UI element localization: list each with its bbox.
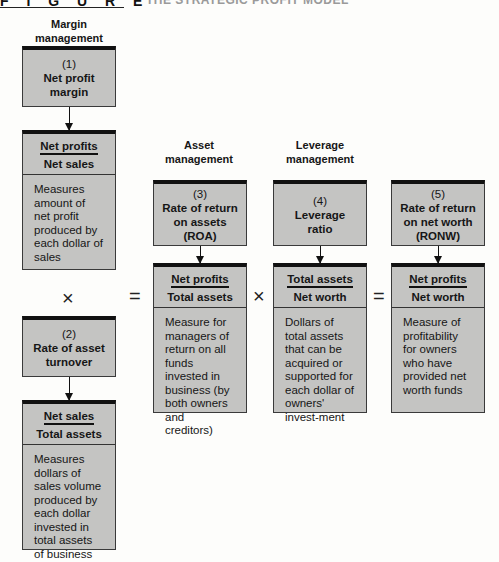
- ronw-box: (5) Rate of return on net worth (RONW): [391, 180, 485, 246]
- box-title-line: Rate of return: [400, 201, 475, 215]
- formula: Net profits Total assets: [154, 267, 246, 307]
- description: Measure for managers of return on all fu…: [154, 308, 246, 446]
- column-label-leverage: Leverage management: [272, 138, 368, 166]
- box-number: (2): [62, 327, 76, 341]
- equals-operator: =: [373, 285, 385, 308]
- column-label-margin: Margin management: [22, 17, 116, 45]
- formula-numerator: Net profits: [409, 270, 467, 288]
- formula-numerator: Total assets: [287, 270, 353, 288]
- formula-denominator: Net worth: [392, 288, 484, 307]
- formula-numerator: Net sales: [44, 407, 95, 425]
- box-title-line: (RONW): [416, 229, 460, 243]
- ronw-formula-box: Net profits Net worth Measure of profita…: [391, 263, 485, 413]
- multiply-operator: ×: [253, 285, 265, 308]
- box-number: (4): [313, 194, 327, 208]
- figure-header: F I G U R E THE STRATEGIC PROFIT MODEL: [0, 0, 499, 14]
- description: Measure of profitability for owners who …: [392, 308, 484, 405]
- figure-title: THE STRATEGIC PROFIT MODEL: [146, 0, 349, 7]
- arrow-down-icon: [200, 246, 201, 263]
- formula: Total assets Net worth: [274, 267, 366, 307]
- net-profit-margin-formula-box: Net profits Net sales Measures amount of…: [22, 130, 116, 270]
- box-title-line: Net profit: [43, 71, 94, 85]
- column-label-asset: Asset management: [152, 138, 246, 166]
- box-title-line: on net worth: [404, 215, 473, 229]
- formula: Net sales Total assets: [23, 404, 115, 444]
- box-number: (1): [62, 57, 76, 71]
- leverage-ratio-box: (4) Leverage ratio: [273, 180, 367, 246]
- formula-denominator: Net worth: [274, 288, 366, 307]
- formula-denominator: Net sales: [23, 155, 115, 174]
- net-profit-margin-box: (1) Net profit margin: [22, 46, 116, 107]
- formula-numerator: Net profits: [171, 270, 229, 288]
- asset-turnover-box: (2) Rate of asset turnover: [22, 316, 116, 377]
- equals-operator: =: [129, 285, 141, 308]
- description: Measures dollars of sales volume produce…: [23, 445, 115, 562]
- roa-formula-box: Net profits Total assets Measure for man…: [153, 263, 247, 413]
- arrow-down-icon: [69, 107, 70, 130]
- formula-numerator: Net profits: [40, 137, 98, 155]
- header-rule: [0, 7, 124, 8]
- box-title-line: turnover: [46, 355, 93, 369]
- formula: Net profits Net worth: [392, 267, 484, 307]
- box-title-line: ratio: [308, 222, 333, 236]
- description: Measures amount of net profit produced b…: [23, 175, 115, 272]
- box-title-line: Leverage: [295, 208, 346, 222]
- arrow-down-icon: [438, 246, 439, 263]
- formula-denominator: Total assets: [154, 288, 246, 307]
- asset-turnover-formula-box: Net sales Total assets Measures dollars …: [22, 400, 116, 550]
- formula-denominator: Total assets: [23, 425, 115, 444]
- box-title-line: (ROA): [183, 229, 216, 243]
- description: Dollars of total assets that can be acqu…: [274, 308, 366, 432]
- box-title-line: on assets: [173, 215, 226, 229]
- formula: Net profits Net sales: [23, 134, 115, 174]
- box-number: (5): [431, 187, 445, 201]
- arrow-down-icon: [320, 246, 321, 263]
- box-title-line: Rate of return: [162, 201, 237, 215]
- multiply-operator: ×: [62, 287, 74, 310]
- box-title-line: margin: [50, 85, 88, 99]
- box-number: (3): [193, 187, 207, 201]
- arrow-down-icon: [69, 377, 70, 400]
- box-title-line: Rate of asset: [33, 341, 105, 355]
- roa-box: (3) Rate of return on assets (ROA): [153, 180, 247, 246]
- leverage-ratio-formula-box: Total assets Net worth Dollars of total …: [273, 263, 367, 413]
